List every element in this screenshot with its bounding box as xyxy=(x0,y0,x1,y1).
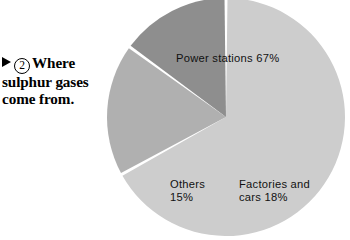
slice-label-others: Others 15% xyxy=(170,178,205,205)
pie-chart: Power stations 67% Others 15% Factories … xyxy=(0,0,350,240)
slice-label-factories-and-cars: Factories and cars 18% xyxy=(239,178,310,205)
slice-label-others-line2: 15% xyxy=(170,191,205,204)
slice-label-factories-and-cars-line1: Factories and xyxy=(239,178,310,191)
slice-label-factories-and-cars-line2: cars 18% xyxy=(239,191,310,204)
slice-label-power-stations: Power stations 67% xyxy=(176,52,279,65)
figure-panel: 2Where sulphur gases come from. Power st… xyxy=(0,0,350,240)
slice-label-others-line1: Others xyxy=(170,178,205,191)
slice-label-power-stations-line1: Power stations 67% xyxy=(176,52,279,65)
